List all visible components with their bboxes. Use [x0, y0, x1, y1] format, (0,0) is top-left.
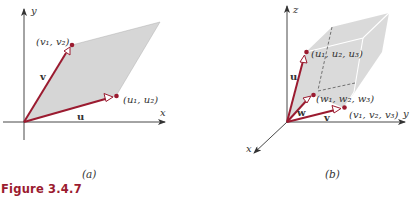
figure-caption: Figure 3.4.7	[1, 182, 82, 196]
point-u	[304, 50, 309, 55]
arrowhead-v-icon	[332, 106, 341, 114]
z-axis-label: z	[292, 4, 299, 15]
point-w-label: (w₁, w₂, w₃)	[316, 93, 374, 104]
y-axis-label: y	[30, 5, 37, 16]
panel-b: z y x (u₁, u₂, u₃) (w₁, w₂, w₃) (v₁, v₂,…	[246, 4, 409, 154]
point-u-label: (u₁, u₂, u₃)	[311, 48, 363, 59]
x-axis-label: x	[160, 107, 166, 118]
point-u	[114, 94, 119, 99]
vector-u-label: u	[77, 111, 84, 122]
x-axis-label: x	[246, 143, 252, 154]
panel-a: y x (v₁, v₂) (u₁, u₂) v u	[3, 5, 166, 140]
panel-b-sublabel: (b)	[325, 168, 340, 180]
point-v	[342, 105, 347, 110]
point-u-label: (u₁, u₂)	[123, 94, 158, 105]
point-v	[70, 43, 75, 48]
vector-v-label: v	[39, 71, 47, 82]
y-axis-label: y	[402, 108, 409, 119]
vector-v-label: v	[323, 112, 331, 123]
vector-w-label: w	[296, 107, 306, 118]
point-v-label: (v₁, v₂, v₃)	[349, 109, 399, 120]
panel-a-sublabel: (a)	[82, 168, 96, 180]
figure-canvas: y x (v₁, v₂) (u₁, u₂) v u z y	[0, 0, 413, 200]
point-v-label: (v₁, v₂)	[36, 36, 70, 47]
vector-u-label: u	[290, 71, 297, 82]
x-axis	[254, 122, 287, 153]
